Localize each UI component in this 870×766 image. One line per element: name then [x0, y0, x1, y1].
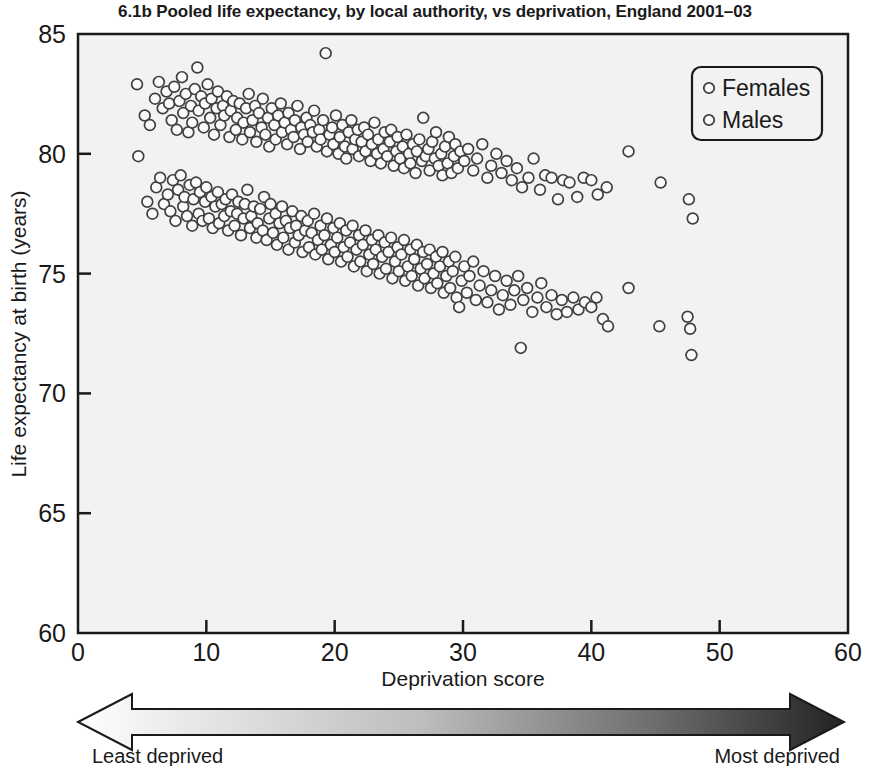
data-point [205, 112, 216, 123]
data-point [445, 283, 456, 294]
data-point [463, 144, 474, 155]
data-point [491, 148, 502, 159]
data-point [486, 285, 497, 296]
data-point [482, 297, 493, 308]
data-point [601, 182, 612, 193]
data-point [278, 232, 289, 243]
data-point [327, 122, 338, 133]
data-point [360, 225, 371, 236]
data-point [553, 194, 564, 205]
y-tick-label: 75 [38, 260, 66, 288]
data-point [564, 177, 575, 188]
chart-figure: 6.1b Pooled life expectancy, by local au… [0, 0, 870, 766]
data-point [187, 220, 198, 231]
data-point [132, 79, 143, 90]
data-point [268, 227, 279, 238]
data-point [518, 295, 529, 306]
data-point [309, 105, 320, 116]
data-point [257, 93, 268, 104]
data-point [347, 220, 358, 231]
data-point [275, 98, 286, 109]
data-point [410, 168, 421, 179]
data-point [517, 182, 528, 193]
data-point [277, 201, 288, 212]
scatter-plot-svg: 606570758085 0102030405060 Life expectan… [0, 0, 870, 766]
data-point [260, 129, 271, 140]
data-point [431, 127, 442, 138]
data-point [685, 323, 696, 334]
x-tick-label: 40 [577, 638, 605, 666]
data-point [245, 127, 256, 138]
data-point [556, 295, 567, 306]
data-point [198, 122, 209, 133]
data-point [470, 295, 481, 306]
data-point [209, 129, 220, 140]
data-point [169, 81, 180, 92]
y-tick-label: 65 [38, 499, 66, 527]
data-point [144, 120, 155, 131]
data-point [147, 208, 158, 219]
legend-label-males: Males [722, 107, 783, 133]
data-point [255, 204, 266, 215]
data-point [513, 271, 524, 282]
data-point [418, 112, 429, 123]
data-point [535, 184, 546, 195]
data-point [683, 194, 694, 205]
data-point [586, 175, 597, 186]
x-tick-label: 30 [449, 638, 477, 666]
legend: Females Males [692, 67, 822, 140]
data-point [523, 172, 534, 183]
data-point [568, 292, 579, 303]
data-point [142, 196, 153, 207]
data-point [177, 72, 188, 83]
data-point [591, 292, 602, 303]
data-point [541, 302, 552, 313]
x-tick-label: 0 [71, 638, 85, 666]
data-point [450, 251, 461, 262]
data-point [447, 266, 458, 277]
data-point [133, 151, 144, 162]
data-point [322, 213, 333, 224]
data-point [346, 115, 357, 126]
data-point [546, 172, 557, 183]
data-point [486, 160, 497, 171]
data-point [243, 89, 254, 100]
y-axis-title: Life expectancy at birth (years) [7, 190, 30, 477]
data-point [505, 299, 516, 310]
data-point [532, 292, 543, 303]
data-point [686, 350, 697, 361]
data-point [536, 278, 547, 289]
data-point [309, 208, 320, 219]
data-point [437, 247, 448, 258]
data-point [164, 98, 175, 109]
x-axis-title: Deprivation score [381, 667, 544, 690]
data-point [527, 307, 538, 318]
data-point [187, 117, 198, 128]
data-point [288, 132, 299, 143]
data-point [496, 168, 507, 179]
data-point [386, 232, 397, 243]
data-point [512, 163, 523, 174]
y-tick-label: 70 [38, 379, 66, 407]
x-tick-label: 20 [321, 638, 349, 666]
data-point [320, 48, 331, 59]
data-point [551, 309, 562, 320]
data-point [468, 256, 479, 267]
legend-marker-females [704, 83, 714, 93]
data-point [150, 93, 161, 104]
data-point [654, 321, 665, 332]
data-point [501, 156, 512, 167]
data-point [501, 275, 512, 286]
data-point [341, 153, 352, 164]
legend-label-females: Females [722, 75, 810, 101]
data-point [482, 172, 493, 183]
data-point [687, 213, 698, 224]
data-point [171, 124, 182, 135]
data-point [623, 146, 634, 157]
data-point [162, 189, 173, 200]
data-point [331, 110, 342, 121]
data-point [292, 100, 303, 111]
data-point [682, 311, 693, 322]
data-point [468, 165, 479, 176]
gradient-arrow-shape [78, 694, 844, 750]
